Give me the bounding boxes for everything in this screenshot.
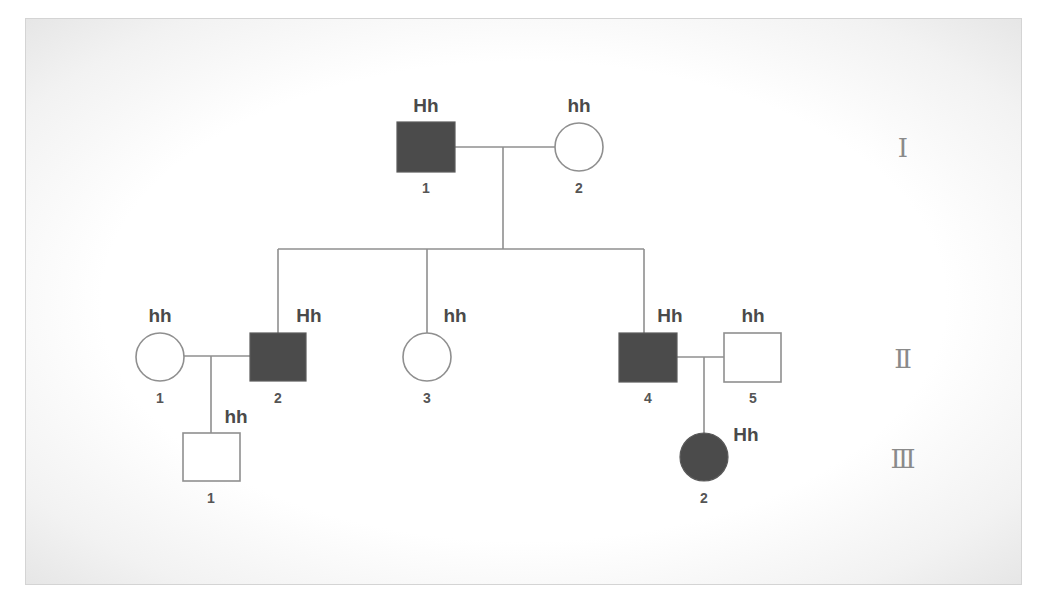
unaffected-female-symbol <box>403 333 451 381</box>
pedigree-lines <box>184 147 724 433</box>
genotype-label: Hh <box>733 424 758 445</box>
genotype-label: Hh <box>296 305 321 326</box>
individual-II-2: Hh 2 <box>250 305 322 406</box>
genotype-label: Hh <box>413 95 438 116</box>
individual-number: 1 <box>156 390 164 406</box>
affected-male-symbol <box>250 333 306 381</box>
generation-label-I: Ⅰ <box>898 134 908 163</box>
affected-female-symbol <box>680 433 728 481</box>
individual-III-1: hh 1 <box>183 406 248 506</box>
individual-III-2: Hh 2 <box>680 424 759 506</box>
individual-II-3: hh 3 <box>403 305 467 406</box>
individual-number: 1 <box>207 490 215 506</box>
individual-II-1: hh 1 <box>136 305 184 406</box>
unaffected-female-symbol <box>555 123 603 171</box>
generation-label-II: Ⅱ <box>894 345 912 374</box>
affected-male-symbol <box>397 122 455 172</box>
genotype-label: hh <box>443 305 466 326</box>
generation-label-III: Ⅲ <box>890 445 915 474</box>
generation-labels: Ⅰ Ⅱ Ⅲ <box>890 134 915 474</box>
genotype-label: Hh <box>657 305 682 326</box>
individual-number: 1 <box>422 180 430 196</box>
individual-I-1: Hh 1 <box>397 95 455 196</box>
pedigree-chart: Hh 1 hh 2 hh 1 Hh 2 hh 3 Hh 4 hh 5 hh 1 <box>0 0 1043 600</box>
individual-number: 2 <box>274 390 282 406</box>
individual-number: 5 <box>749 390 757 406</box>
individual-II-5: hh 5 <box>724 305 781 406</box>
individual-II-4: Hh 4 <box>619 305 683 406</box>
affected-male-symbol <box>619 333 677 382</box>
individual-number: 4 <box>644 390 652 406</box>
individual-number: 2 <box>700 490 708 506</box>
individual-number: 3 <box>423 390 431 406</box>
individual-I-2: hh 2 <box>555 95 603 196</box>
unaffected-female-symbol <box>136 333 184 381</box>
unaffected-male-symbol <box>724 333 781 382</box>
genotype-label: hh <box>567 95 590 116</box>
genotype-label: hh <box>741 305 764 326</box>
individual-number: 2 <box>575 180 583 196</box>
unaffected-male-symbol <box>183 433 240 481</box>
genotype-label: hh <box>224 406 247 427</box>
genotype-label: hh <box>148 305 171 326</box>
